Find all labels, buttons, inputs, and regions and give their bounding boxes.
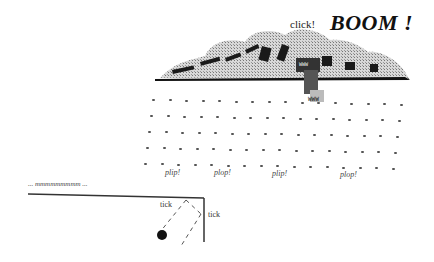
tick-label-right: tick [208, 210, 220, 219]
pendulum-frame-icon [0, 0, 434, 262]
ball-icon [157, 230, 167, 240]
tick-label-left: tick [160, 200, 172, 209]
